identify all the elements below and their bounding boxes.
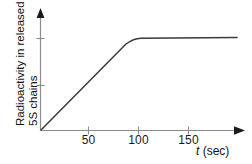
x-tick-label-100: 100 xyxy=(123,133,154,147)
x-axis-arrow-icon xyxy=(234,126,245,134)
y-axis-label-line-2: 5S chains xyxy=(27,75,39,126)
x-tick-label-50: 50 xyxy=(73,133,104,147)
y-axis-label: Radioactivity in released 5S chains xyxy=(0,0,36,132)
chart-figure: Radioactivity in released 5S chains 50 1… xyxy=(0,0,252,164)
y-axis-label-line-1: Radioactivity in released xyxy=(14,1,26,126)
y-axis-arrow-icon xyxy=(37,8,45,18)
x-axis-title: t (sec) xyxy=(196,144,229,158)
x-axis-title-unit: (sec) xyxy=(203,144,230,158)
data-curve-radioactivity xyxy=(41,38,237,130)
